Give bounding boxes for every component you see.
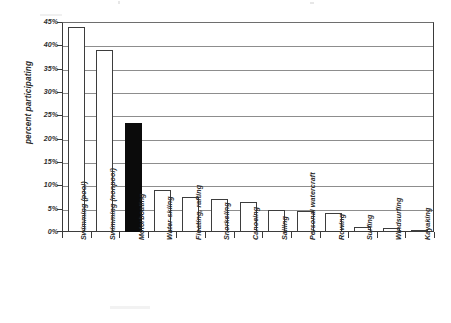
x-axis-label: Swimming (nonpool) [108,168,117,240]
x-axis-label: Kayaking [423,208,432,240]
scan-speckle [118,1,120,4]
scan-speckle [40,14,62,16]
scan-speckle [310,2,314,4]
x-axis-label: Motorboating [137,193,146,240]
x-axis-label: Personal watercraft [308,172,317,240]
bar-chart: percent participating 45% 40% 35% 30% 25… [0,0,451,323]
x-axis-tick-labels: Swimming (pool)Swimming (nonpool)Motorbo… [62,238,434,323]
x-axis-label: Windsurfing [394,198,403,240]
x-tick-mark [434,232,435,238]
x-axis-label: Swimming (pool) [79,181,88,240]
x-axis-label: Rowing [337,214,346,240]
x-axis-label: Floating, rafting [194,185,203,240]
x-axis-label: Surfing [365,214,374,240]
x-axis-label: Snorkeling [222,202,231,240]
y-axis-tick-marks [0,22,62,232]
x-axis-label: Water-skiing [165,196,174,240]
x-axis-label: Sailing [280,216,289,240]
x-axis-label: Canoeing [251,207,260,240]
bars-layer [62,22,434,232]
